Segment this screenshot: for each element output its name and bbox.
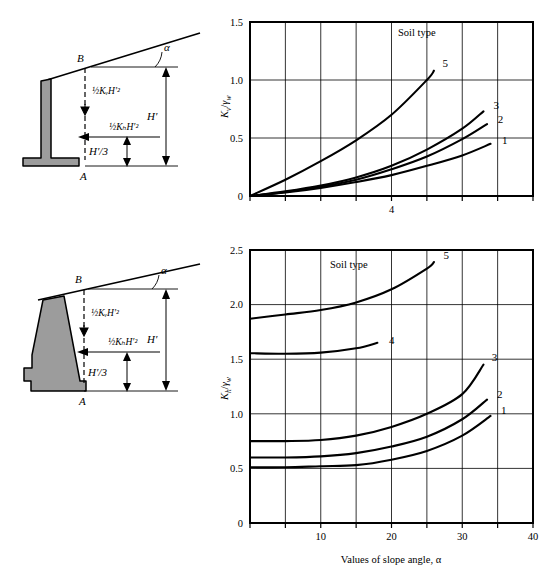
kh-legend-title: Soil type bbox=[330, 259, 368, 270]
curve-series-5 bbox=[250, 262, 434, 319]
third-height-label: H′/3 bbox=[88, 145, 108, 157]
xtick-label: 4 bbox=[389, 204, 395, 215]
third-height-label: H′/3 bbox=[87, 366, 107, 378]
angle-arc bbox=[155, 52, 162, 67]
point-a-label: A bbox=[78, 395, 86, 407]
kh-xtick-labels: 10203040 bbox=[316, 531, 539, 542]
curve-label-5: 5 bbox=[444, 249, 450, 261]
vertical-force-arrow bbox=[80, 325, 88, 336]
ytick-label: 0.5 bbox=[230, 133, 243, 144]
kh-x-axis-title: Values of slope angle, α bbox=[341, 554, 442, 565]
kh-y-axis-title: Kh/γw bbox=[219, 377, 233, 401]
kh-ylabel-denom-sub: w bbox=[224, 377, 233, 382]
figure-svg: α ½KᵥH′² ½KₕH′² H′ H′/3 B A α bbox=[0, 0, 554, 580]
height-arrow-bottom bbox=[162, 156, 170, 166]
angle-label: α bbox=[161, 264, 167, 276]
angle-arc bbox=[152, 275, 159, 289]
kv-curves bbox=[250, 71, 491, 196]
xtick-label: 10 bbox=[316, 531, 327, 542]
vertical-force-label: ½KᵥH′² bbox=[91, 308, 119, 318]
curve-label-2: 2 bbox=[497, 388, 503, 400]
vertical-force-arrow bbox=[81, 104, 89, 115]
vertical-force-label: ½KᵥH′² bbox=[92, 86, 120, 96]
height-label: H′ bbox=[146, 110, 158, 122]
ytick-label: 0 bbox=[238, 518, 243, 529]
ytick-label: 1.5 bbox=[230, 17, 243, 28]
ytick-label: 0 bbox=[238, 191, 243, 202]
kv-y-axis-title: Kv/γw bbox=[219, 96, 233, 119]
point-b-label: B bbox=[75, 273, 82, 285]
angle-label: α bbox=[164, 41, 170, 53]
xtick-label: 40 bbox=[528, 531, 539, 542]
curve-series-1 bbox=[250, 144, 491, 196]
gravity-wall-diagram: α ½KᵥH′² ½KₕH′² H′ H′/3 B A bbox=[24, 264, 200, 407]
height-arrow-top bbox=[162, 289, 170, 299]
kh-chart: 00.51.01.52.02.5 10203040 12345 Soil typ… bbox=[219, 245, 538, 565]
ytick-label: 1.0 bbox=[230, 409, 243, 420]
svg-text:Kv/γw: Kv/γw bbox=[219, 96, 233, 119]
horizontal-force-arrow bbox=[77, 348, 88, 356]
horizontal-force-label: ½KₕH′² bbox=[108, 337, 137, 347]
kh-ytick-labels: 00.51.01.52.02.5 bbox=[230, 245, 243, 529]
curve-series-5 bbox=[250, 71, 434, 196]
curve-label-1: 1 bbox=[502, 134, 508, 146]
height-arrow-bottom bbox=[162, 381, 170, 391]
kv-ylabel-denom-sub: w bbox=[224, 96, 233, 101]
curve-label-1: 1 bbox=[501, 404, 507, 416]
ytick-label: 2.5 bbox=[230, 245, 243, 256]
kv-xtick-labels: 4 bbox=[389, 204, 395, 215]
cantilever-wall-diagram: α ½KᵥH′² ½KₕH′² H′ H′/3 B A bbox=[23, 33, 200, 182]
point-a-label: A bbox=[79, 170, 87, 182]
curve-label-5: 5 bbox=[442, 57, 448, 69]
curve-label-3: 3 bbox=[492, 351, 498, 363]
third-height-arrow-top bbox=[123, 352, 131, 361]
kv-legend-title: Soil type bbox=[398, 27, 436, 38]
ytick-label: 1.5 bbox=[230, 354, 243, 365]
gravity-wall-body bbox=[24, 296, 86, 391]
slope-surface-line bbox=[38, 264, 200, 300]
ytick-label: 1.0 bbox=[230, 75, 243, 86]
cantilever-wall-body bbox=[23, 79, 79, 166]
curve-label-3: 3 bbox=[493, 99, 499, 111]
xtick-label: 20 bbox=[386, 531, 397, 542]
kh-curve-labels: 12345 bbox=[389, 249, 506, 416]
xtick-label: 30 bbox=[457, 531, 468, 542]
ytick-label: 2.0 bbox=[230, 299, 243, 310]
curve-label-4: 4 bbox=[389, 334, 395, 346]
curve-series-4 bbox=[250, 343, 377, 354]
kh-gridlines bbox=[250, 250, 533, 523]
ytick-label: 0.5 bbox=[230, 463, 243, 474]
horizontal-force-arrow bbox=[78, 133, 89, 141]
height-label: H′ bbox=[146, 333, 158, 345]
horizontal-force-label: ½KₕH′² bbox=[109, 122, 138, 132]
kv-chart: 00.51.01.5 4 1235 Soil type Kv/γw bbox=[219, 17, 533, 215]
curve-label-2: 2 bbox=[498, 113, 504, 125]
slope-surface-line bbox=[47, 33, 200, 80]
kh-curves bbox=[250, 262, 491, 467]
svg-text:Kh/γw: Kh/γw bbox=[219, 377, 233, 401]
height-arrow-top bbox=[162, 67, 170, 77]
figure-root: α ½KᵥH′² ½KₕH′² H′ H′/3 B A α bbox=[0, 0, 554, 580]
point-b-label: B bbox=[77, 52, 84, 64]
